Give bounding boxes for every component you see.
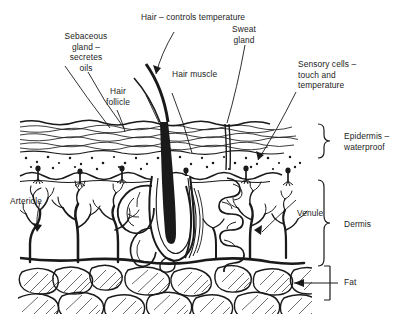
label-hair: Hair – controls temperature — [110, 12, 276, 23]
label-fat: Fat — [344, 277, 384, 288]
label-arteriole: Arteriole — [10, 196, 66, 207]
label-sweat-gland: Sweat gland — [218, 24, 270, 45]
skin-diagram: Hair – controls temperature Sebaceous gl… — [0, 0, 415, 331]
label-sensory-cells: Sensory cells – touch and temperature — [298, 59, 410, 91]
label-venule: Venule — [297, 208, 343, 219]
label-hair-muscle: Hair muscle — [172, 69, 262, 80]
label-hair-follicle: Hair follicle — [95, 86, 141, 107]
label-sebaceous-gland: Sebaceous gland – secretes oils — [48, 31, 124, 73]
label-epidermis: Epidermis – waterproof — [344, 131, 412, 152]
label-dermis: Dermis — [344, 219, 404, 230]
